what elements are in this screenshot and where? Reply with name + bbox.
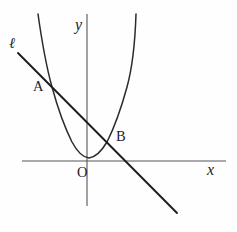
geometry-figure: ℓ y x O A B [0, 0, 237, 232]
figure-canvas [0, 0, 237, 232]
origin-label: O [77, 165, 87, 180]
line-label-ell: ℓ [9, 36, 15, 51]
y-axis-label: y [75, 17, 82, 33]
x-axis-label: x [207, 162, 214, 178]
point-label-a: A [33, 79, 43, 94]
secant-line [18, 53, 177, 213]
point-label-b: B [116, 129, 126, 144]
